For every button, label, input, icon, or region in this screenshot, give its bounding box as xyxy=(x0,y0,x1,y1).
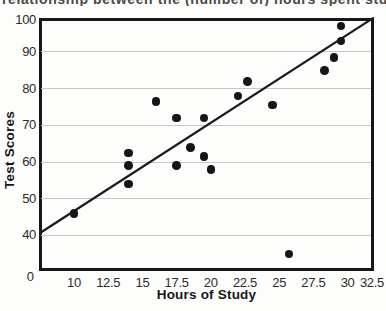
data-point xyxy=(330,53,339,62)
data-point xyxy=(172,161,181,170)
trend-line-layer xyxy=(0,0,386,311)
data-point xyxy=(268,101,277,110)
data-point xyxy=(200,152,209,161)
data-point xyxy=(70,209,79,218)
data-point xyxy=(124,149,133,158)
y-axis-title: Test Scores xyxy=(2,90,18,210)
trend-line xyxy=(41,18,373,232)
y-tick-label-40: 40 xyxy=(4,228,36,242)
data-point xyxy=(207,165,216,174)
data-point xyxy=(172,114,181,123)
data-point xyxy=(152,97,161,106)
origin-zero-label: 0 xyxy=(20,270,34,284)
y-tick-label-100: 100 xyxy=(4,13,36,27)
data-point xyxy=(186,143,195,152)
data-point xyxy=(337,37,346,46)
y-tick-label-90: 90 xyxy=(4,45,36,59)
scatterplot-figure: relationship between the (number of) hou… xyxy=(0,0,386,311)
data-point xyxy=(285,250,294,259)
data-point xyxy=(320,66,329,75)
x-axis-title: Hours of Study xyxy=(39,287,374,302)
data-point xyxy=(124,161,133,170)
data-point xyxy=(243,77,252,86)
